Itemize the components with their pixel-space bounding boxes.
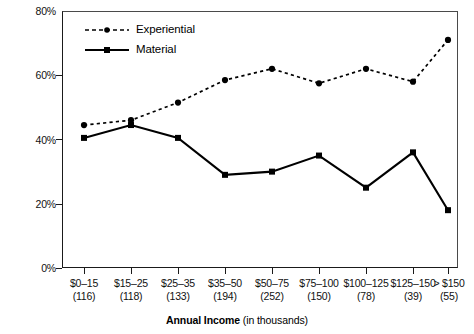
- series-markers-experiential: [81, 37, 451, 128]
- data-point: [445, 37, 451, 43]
- data-point: [269, 66, 275, 72]
- data-point: [175, 99, 181, 105]
- series-line-experiential: [84, 40, 448, 125]
- data-point: [316, 153, 322, 159]
- income-happiness-line-chart: 80% 60% 40% 20% 0% $0–15 (116) $15–25 (1…: [0, 0, 474, 334]
- data-point: [128, 122, 134, 128]
- series-markers-material: [81, 122, 451, 213]
- series-layer: [0, 0, 474, 334]
- data-point: [222, 172, 228, 178]
- data-point: [363, 66, 369, 72]
- data-point: [175, 135, 181, 141]
- data-point: [81, 122, 87, 128]
- data-point: [363, 185, 369, 191]
- data-point: [445, 207, 451, 213]
- data-point: [222, 77, 228, 83]
- data-point: [410, 79, 416, 85]
- data-point: [316, 80, 322, 86]
- series-line-material: [84, 125, 448, 210]
- data-point: [410, 149, 416, 155]
- data-point: [81, 135, 87, 141]
- data-point: [269, 169, 275, 175]
